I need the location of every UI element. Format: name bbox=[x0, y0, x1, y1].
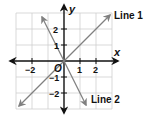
tick-label-y-1: 1 bbox=[54, 41, 59, 51]
tick-label-x-neg2: −2 bbox=[25, 65, 35, 75]
x-axis-label: x bbox=[113, 46, 121, 58]
tick-label-x-1: 1 bbox=[77, 65, 82, 75]
tick-label-x-2: 2 bbox=[93, 65, 98, 75]
tick-label-y-2: 2 bbox=[53, 25, 58, 35]
line-2-label: Line 2 bbox=[91, 94, 120, 105]
tick-label-y-neg1: −1 bbox=[49, 73, 59, 83]
coordinate-plane: y x O −2 1 2 2 1 −1 −2 Line 1 Line 2 bbox=[0, 0, 146, 116]
y-axis-label: y bbox=[68, 3, 76, 15]
line-1-label: Line 1 bbox=[114, 10, 143, 21]
tick-label-y-neg2: −2 bbox=[49, 89, 59, 99]
